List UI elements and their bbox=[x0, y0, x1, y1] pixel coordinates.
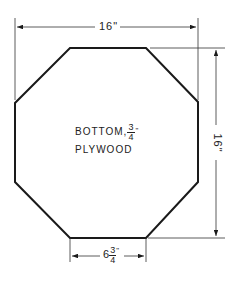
height-dimension-label: 16" bbox=[212, 133, 224, 152]
edge-dimension-label: 634" bbox=[103, 246, 119, 265]
width-dimension-label: 16" bbox=[99, 20, 118, 32]
part-label: BOTTOM,34" PLYWOOD bbox=[75, 123, 139, 157]
